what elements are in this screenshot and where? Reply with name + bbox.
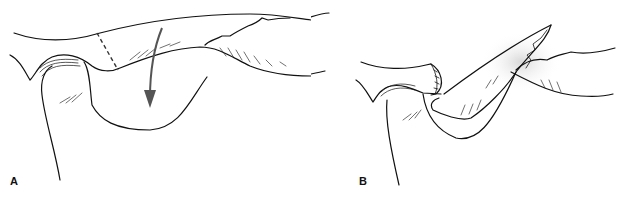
panel-a: A <box>0 0 311 199</box>
panel-label-b: B <box>359 175 367 187</box>
panel-b: B <box>311 0 622 199</box>
illustration-b <box>311 0 622 199</box>
arrow-down-icon <box>144 28 162 108</box>
incision-line <box>97 33 118 70</box>
illustration-a <box>0 0 311 199</box>
panel-label-a: A <box>10 175 18 187</box>
